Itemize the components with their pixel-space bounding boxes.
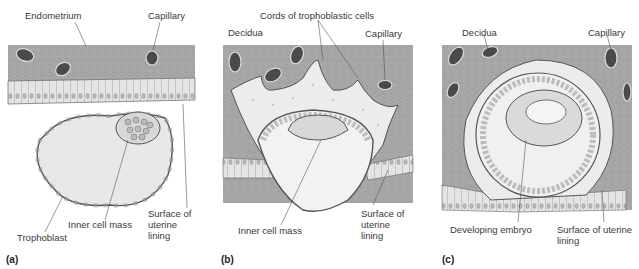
panel-c: Decidua Capillary Developing embryo Surf… — [426, 0, 639, 269]
uterine-lining — [8, 78, 195, 104]
label-capillary: Capillary — [148, 10, 185, 21]
capillary-vessel — [146, 51, 158, 65]
label-decidua: Decidua — [228, 27, 263, 38]
label-inner-cell-mass: Inner cell mass — [238, 225, 302, 236]
capillary-vessel — [623, 83, 631, 101]
label-decidua: Decidua — [462, 27, 497, 38]
label-surface-uterine-lining: Surface of uterine lining — [361, 208, 411, 241]
panel-b: Cords of trophoblastic cells Decidua Cap… — [213, 0, 426, 269]
capillary-vessel — [605, 48, 617, 68]
label-trophoblast: Trophoblast — [17, 232, 67, 243]
capillary-vessel — [378, 81, 392, 90]
label-developing-embryo: Developing embryo — [450, 224, 532, 235]
label-cords-of-trophoblastic-cells: Cords of trophoblastic cells — [260, 10, 374, 21]
label-capillary: Capillary — [588, 27, 625, 38]
label-endometrium: Endometrium — [25, 10, 82, 21]
amniotic-cavity — [526, 100, 566, 124]
label-surface-uterine-lining: Surface of uterine lining — [557, 224, 637, 246]
label-capillary: Capillary — [365, 28, 402, 39]
label-inner-cell-mass: Inner cell mass — [68, 219, 132, 230]
panel-label-b: (b) — [221, 254, 234, 265]
panel-a: Endometrium Capillary Inner cell mass Tr… — [0, 0, 213, 269]
panel-label-c: (c) — [442, 254, 454, 265]
label-surface-uterine-lining: Surface of uterine lining — [148, 208, 198, 241]
panel-label-a: (a) — [6, 254, 18, 265]
endometrium-tissue — [8, 45, 195, 81]
capillary-vessel — [229, 52, 241, 72]
